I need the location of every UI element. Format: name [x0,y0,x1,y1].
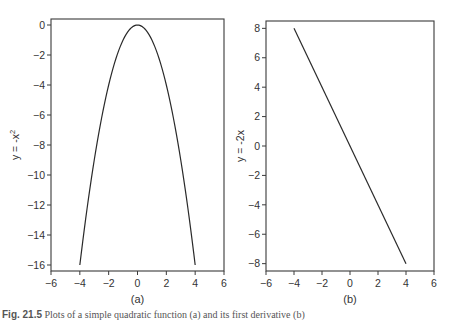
y-tick-label: 8 [254,22,260,34]
y-axis-label: y = -x2 [8,130,21,160]
y-tick-label: −14 [27,229,45,241]
y-tick-label: −2 [248,169,260,181]
caption-prefix: Fig. 21.5 [2,309,42,320]
plot-frame [51,19,224,271]
y-tick-label: 2 [254,110,260,122]
y-tick-label: 0 [254,140,260,152]
y-tick-label: 6 [254,51,260,63]
x-tick-label: −4 [74,277,86,289]
figure-caption: Fig. 21.5 Plots of a simple quadratic fu… [2,309,305,320]
x-tick-label: −6 [260,277,272,289]
y-tick-label: −2 [33,49,45,61]
y-tick-label: −12 [27,199,45,211]
x-tick-label: 0 [135,277,141,289]
panel-label: (b) [343,293,356,305]
caption-text: Plots of a simple quadratic function (a)… [45,309,305,320]
x-tick-label: −6 [45,277,57,289]
y-axis-label: y = -2x [234,129,246,162]
panel-label: (a) [131,293,144,305]
y-tick-label: 4 [254,81,260,93]
y-tick-label: −4 [33,79,45,91]
y-tick-label: 0 [39,19,45,31]
x-tick-label: 2 [163,277,169,289]
x-tick-label: 2 [375,277,381,289]
figure-canvas: −6−4−202460−2−4−6−8−10−12−14−16y = -x2(a… [0,0,451,305]
x-tick-label: 0 [347,277,353,289]
x-tick-label: −2 [316,277,328,289]
x-tick-label: −4 [288,277,300,289]
y-tick-label: −10 [27,169,45,181]
x-tick-label: −2 [103,277,115,289]
chart-panel-b: −6−4−2024686420−2−4−6−8y = -2x(b) [234,21,437,305]
x-tick-label: 6 [431,277,437,289]
x-tick-label: 4 [403,277,409,289]
y-tick-label: −6 [33,109,45,121]
y-tick-label: −16 [27,259,45,271]
data-series-line [294,28,406,263]
chart-panel-a: −6−4−202460−2−4−6−8−10−12−14−16y = -x2(a… [8,19,227,305]
y-tick-label: −8 [33,139,45,151]
data-series-line [80,25,195,265]
y-tick-label: −6 [248,228,260,240]
x-tick-label: 6 [221,277,227,289]
y-axis-label-superscript: 2 [8,130,17,134]
y-tick-label: −4 [248,199,260,211]
x-tick-label: 4 [192,277,198,289]
y-tick-label: −8 [248,257,260,269]
